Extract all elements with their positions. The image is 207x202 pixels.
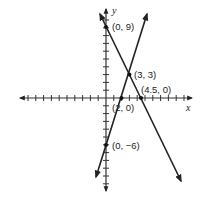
- point-2-0: [120, 96, 124, 100]
- y-axis-label: y: [111, 5, 117, 16]
- coordinate-plane: y x (0, 9) (3, 3) (4.5, 0) (2, 0) (0, −6…: [0, 0, 207, 202]
- point-4-5-0: [139, 96, 143, 100]
- point-3-3: [127, 73, 131, 77]
- point-0-neg6: [104, 143, 108, 147]
- label-point-4-5-0: (4.5, 0): [141, 84, 171, 95]
- x-axis-label: x: [185, 102, 191, 113]
- y-axis: [103, 9, 109, 191]
- label-point-3-3: (3, 3): [134, 69, 156, 80]
- label-point-0-neg6: (0, −6): [112, 140, 140, 151]
- point-0-9: [104, 25, 108, 29]
- label-point-0-9: (0, 9): [112, 21, 134, 32]
- label-point-2-0: (2, 0): [112, 102, 134, 113]
